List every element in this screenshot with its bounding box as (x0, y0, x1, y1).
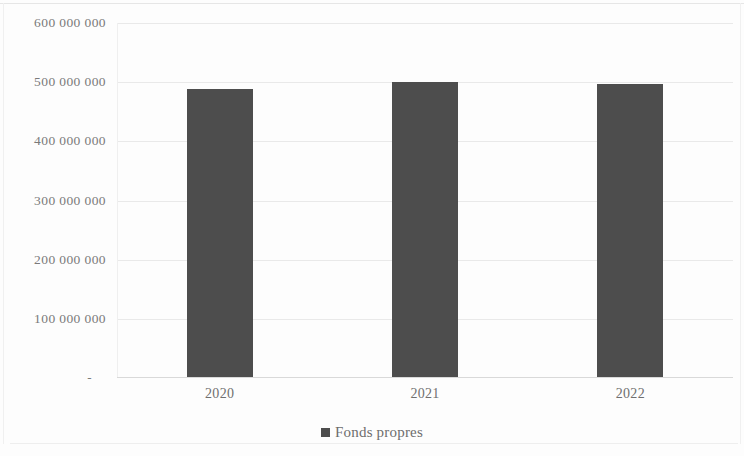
y-axis-tick-label: 500 000 000 (34, 74, 106, 90)
y-axis-tick-label: 100 000 000 (34, 311, 106, 327)
gridline (117, 23, 733, 24)
x-axis-line (117, 377, 733, 378)
x-axis-tick-label: 2022 (616, 386, 645, 402)
legend-swatch-icon (321, 428, 330, 437)
chart-frame-top-border (0, 3, 744, 4)
plot-area (117, 23, 733, 378)
chart-frame-right-border (740, 3, 741, 444)
bar (187, 89, 253, 377)
y-axis-tick-label: 200 000 000 (34, 252, 106, 268)
legend-item-label: Fonds propres (335, 424, 423, 441)
y-axis-line (117, 23, 118, 378)
bar (392, 82, 458, 377)
x-axis-tick-label: 2020 (205, 386, 234, 402)
y-axis-tick-label: - (87, 370, 92, 386)
y-axis-tick-label: 300 000 000 (34, 193, 106, 209)
bar (597, 84, 663, 377)
chart-legend: Fonds propres (0, 424, 744, 441)
x-axis-tick-label: 2021 (410, 386, 439, 402)
bar-chart: -100 000 000200 000 000300 000 000400 00… (0, 0, 744, 456)
chart-frame-bottom-border (10, 443, 738, 444)
y-axis-tick-label: 600 000 000 (34, 15, 106, 31)
y-axis-tick-label: 400 000 000 (34, 133, 106, 149)
y-axis-tick-labels: -100 000 000200 000 000300 000 000400 00… (0, 0, 106, 456)
